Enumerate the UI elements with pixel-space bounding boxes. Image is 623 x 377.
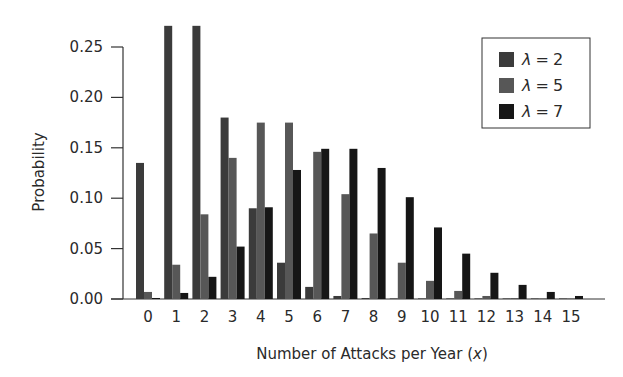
bar-lambda-5: [144, 292, 152, 299]
legend: λ=2λ=5λ=7: [482, 38, 590, 128]
bar-lambda-7: [434, 227, 442, 299]
bar-lambda-2: [192, 26, 200, 299]
bar-lambda-5: [200, 214, 208, 299]
x-tick-label: 4: [256, 308, 266, 326]
x-tick-label: 11: [449, 308, 468, 326]
bar-lambda-5: [539, 298, 547, 299]
legend-swatch: [499, 52, 514, 67]
x-axis-label: Number of Attacks per Year (x): [256, 345, 488, 363]
x-tick-label: 9: [397, 308, 407, 326]
bar-lambda-7: [293, 170, 301, 299]
bar-lambda-7: [208, 277, 216, 299]
bar-group-x-5: [277, 123, 301, 299]
bar-lambda-7: [265, 207, 273, 299]
x-tick-label: 8: [369, 308, 379, 326]
bar-group-x-2: [192, 26, 216, 299]
bar-group-x-4: [249, 123, 273, 299]
bar-lambda-5: [285, 123, 293, 299]
bar-lambda-7: [547, 292, 555, 299]
x-tick-label: 2: [200, 308, 210, 326]
poisson-bar-chart: 0.000.050.100.150.200.25 012345678910111…: [0, 0, 623, 377]
x-tick-label: 1: [171, 308, 181, 326]
legend-label: λ=7: [521, 102, 563, 121]
bar-lambda-7: [406, 197, 414, 299]
x-tick-label: 12: [477, 308, 496, 326]
bar-group-x-12: [474, 273, 498, 299]
bar-group-x-7: [333, 149, 357, 299]
bar-lambda-2: [305, 287, 313, 299]
bar-lambda-2: [136, 163, 144, 299]
x-axis: 0123456789101112131415: [111, 299, 605, 326]
bar-lambda-5: [257, 123, 265, 299]
bar-lambda-7: [237, 247, 245, 299]
bar-lambda-2: [164, 26, 172, 299]
bar-lambda-2: [531, 298, 539, 299]
bar-lambda-7: [152, 298, 160, 299]
bar-group-x-11: [446, 254, 470, 299]
bar-lambda-2: [446, 298, 454, 299]
bar-lambda-2: [474, 298, 482, 299]
bar-lambda-5: [398, 263, 406, 299]
y-tick-label: 0.20: [70, 88, 103, 106]
bar-lambda-7: [378, 168, 386, 299]
bar-lambda-5: [370, 233, 378, 299]
y-tick-label: 0.25: [70, 38, 103, 56]
bar-group-x-1: [164, 26, 188, 299]
bar-lambda-2: [333, 296, 341, 299]
bar-lambda-2: [362, 298, 370, 299]
x-tick-label: 7: [341, 308, 351, 326]
y-tick-label: 0.15: [70, 139, 103, 157]
bar-group-x-13: [503, 285, 527, 299]
bar-lambda-7: [575, 296, 583, 299]
bar-lambda-5: [426, 281, 434, 299]
bar-lambda-5: [511, 298, 519, 299]
y-tick-label: 0.10: [70, 189, 103, 207]
bar-group-x-9: [390, 197, 414, 299]
legend-label: λ=2: [521, 50, 563, 69]
legend-label: λ=5: [521, 76, 563, 95]
y-axis: 0.000.050.100.150.200.25: [70, 38, 123, 308]
bar-lambda-2: [559, 298, 567, 299]
bar-lambda-2: [221, 118, 229, 299]
bar-lambda-2: [390, 298, 398, 299]
bar-lambda-7: [321, 149, 329, 299]
bar-lambda-5: [454, 291, 462, 299]
x-tick-label: 10: [420, 308, 439, 326]
bar-lambda-5: [172, 265, 180, 299]
bar-lambda-2: [277, 263, 285, 299]
bar-lambda-5: [229, 158, 237, 299]
bar-group-x-15: [559, 296, 583, 299]
bar-lambda-2: [503, 298, 511, 299]
y-axis-label: Probability: [30, 132, 48, 211]
x-tick-label: 5: [284, 308, 294, 326]
bar-group-x-14: [531, 292, 555, 299]
bar-lambda-7: [490, 273, 498, 299]
bar-group-x-10: [418, 227, 442, 299]
bar-lambda-5: [482, 296, 490, 299]
x-tick-label: 13: [505, 308, 524, 326]
x-tick-label: 14: [533, 308, 552, 326]
bar-lambda-5: [313, 152, 321, 299]
bar-lambda-5: [341, 194, 349, 299]
bar-group-x-3: [221, 118, 245, 299]
bar-group-x-0: [136, 163, 160, 299]
legend-swatch: [499, 78, 514, 93]
bar-lambda-7: [462, 254, 470, 299]
y-tick-label: 0.05: [70, 240, 103, 258]
x-tick-label: 3: [228, 308, 238, 326]
bar-group-x-8: [362, 168, 386, 299]
bar-lambda-7: [180, 293, 188, 299]
bar-lambda-7: [349, 149, 357, 299]
bar-group-x-6: [305, 149, 329, 299]
x-tick-label: 6: [312, 308, 322, 326]
bar-lambda-2: [418, 298, 426, 299]
bar-lambda-5: [567, 298, 575, 299]
legend-swatch: [499, 104, 514, 119]
y-tick-label: 0.00: [70, 290, 103, 308]
bar-lambda-7: [519, 285, 527, 299]
x-tick-label: 15: [561, 308, 580, 326]
bar-lambda-2: [249, 208, 257, 299]
x-tick-label: 0: [143, 308, 153, 326]
